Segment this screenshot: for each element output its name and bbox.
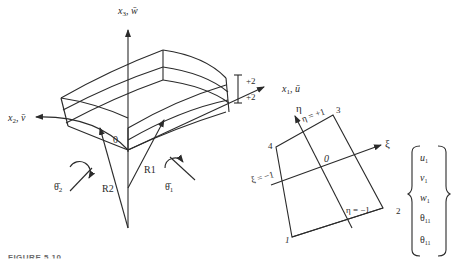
- radius-1-label: R1: [144, 164, 156, 175]
- node-2-label: 2: [396, 206, 401, 216]
- dof-v1: v1: [420, 172, 427, 184]
- xi-axis-label: ξ: [385, 137, 390, 150]
- x1-axis-label: x1, ū: [281, 83, 300, 96]
- rotation-1-label: θ̄1: [165, 181, 174, 194]
- x3-axis-label: x3, w̄: [117, 5, 138, 18]
- node-1-label: 1: [285, 235, 290, 245]
- x1-axis: [128, 87, 264, 150]
- node-4-label: 4: [268, 141, 273, 151]
- eta-axis: [295, 116, 352, 228]
- dof-vector: u1 v1 w1 θ11 θ11: [408, 146, 450, 256]
- xi-axis: [271, 145, 381, 185]
- dof-theta-2: θ11: [420, 234, 431, 246]
- node-3-label: 3: [336, 105, 341, 115]
- isoparametric-element: [271, 115, 383, 237]
- shell-element-diagram: x3, w̄ x1, ū x2, v̄ +2 +2 0 R2 R1 θ̄2 θ̄…: [0, 0, 452, 262]
- radius-2-label: R2: [102, 183, 114, 194]
- dof-u1: u1: [420, 152, 428, 164]
- thickness-top-label: +2: [246, 76, 256, 86]
- x2-axis-label: x2, v̄: [7, 112, 26, 125]
- dof-theta-1: θ11: [420, 212, 431, 224]
- thickness-bottom-label: +2: [246, 92, 256, 102]
- curved-shell: [61, 50, 229, 152]
- eta-axis-label: η: [296, 102, 302, 114]
- dof-w1: w1: [420, 192, 430, 204]
- eta-minus-one-label: η = −1: [346, 205, 370, 215]
- xi-minus-one-label: ξ = −1: [250, 169, 275, 185]
- element-origin-label: 0: [324, 153, 329, 164]
- rotation-1-symbol: θ̄1: [165, 157, 195, 194]
- shell-origin-label: 0: [113, 134, 118, 145]
- rotation-2-label: θ̄2: [54, 181, 63, 194]
- rotation-2-symbol: θ̄2: [54, 162, 92, 194]
